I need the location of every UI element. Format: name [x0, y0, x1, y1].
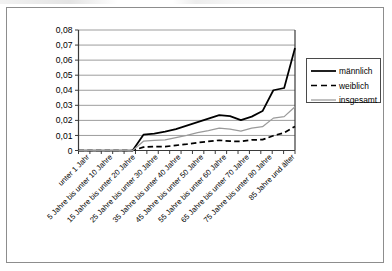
- y-axis-tick-label: 0,07: [56, 40, 73, 50]
- scan-artifact-strip: [0, 0, 392, 4]
- chart-canvas: 00,010,020,030,040,050,060,070,08 unter …: [7, 8, 385, 264]
- y-axis-tick-label: 0,01: [56, 131, 73, 141]
- y-axis-tick-label: 0,08: [56, 25, 73, 35]
- series-line-weiblich: [79, 126, 296, 150]
- y-axis-tick-label: 0: [68, 146, 73, 156]
- y-axis-tick-label: 0,06: [56, 55, 73, 65]
- y-axis-tick-labels: 00,010,020,030,040,050,060,070,08: [56, 25, 73, 156]
- legend-label: insgesamt: [339, 95, 378, 105]
- line-chart: 00,010,020,030,040,050,060,070,08 unter …: [7, 8, 385, 264]
- gridlines-group: [79, 30, 296, 135]
- legend-label: männlich: [339, 66, 373, 76]
- x-axis-category-labels: unter 1 Jahr5 Jahre bis unter 10 Jahre15…: [45, 152, 296, 224]
- y-axis-tick-label: 0,02: [56, 115, 73, 125]
- y-axis-tick-label: 0,03: [56, 100, 73, 110]
- y-axis-tick-label: 0,04: [56, 85, 73, 95]
- y-axis-tick-label: 0,05: [56, 70, 73, 80]
- legend-label: weiblich: [338, 81, 369, 91]
- chart-page-frame: 00,010,020,030,040,050,060,070,08 unter …: [6, 7, 384, 263]
